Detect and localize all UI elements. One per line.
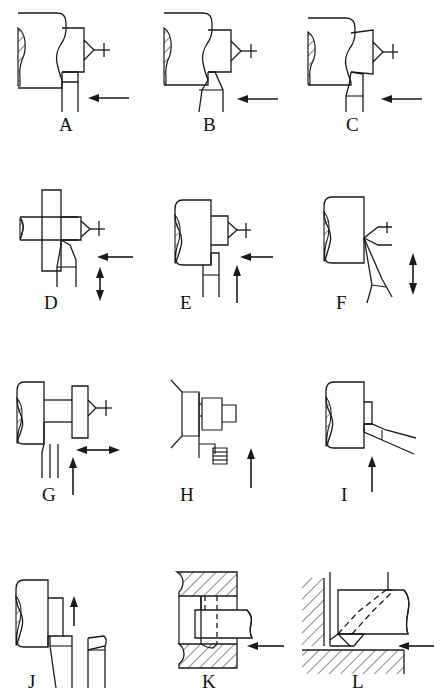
feed-arrow-up-E [233, 265, 241, 303]
panel-label-A: A [59, 115, 73, 134]
feed-arrow-left-B [237, 95, 278, 103]
grooving-tools-G [42, 422, 58, 478]
tool-holder-A [62, 28, 110, 72]
panel-label-K: K [202, 672, 216, 691]
tool-shank-C [346, 72, 363, 112]
tool-shank-E [203, 253, 219, 297]
section-hatch-C [308, 32, 315, 84]
workpiece-D [20, 190, 78, 271]
workpiece-G [17, 382, 88, 444]
feed-arrow-left-D [97, 253, 133, 261]
threading-tool-H [199, 437, 227, 464]
panel-label-G: G [42, 485, 56, 504]
feed-arrow-vertical-double-D [96, 267, 104, 301]
section-hatch-B [164, 28, 171, 84]
section-hatch-I [326, 397, 331, 446]
recessing-tool-L [330, 572, 409, 646]
panel-label-B: B [203, 115, 216, 134]
feed-arrow-left-K [247, 642, 284, 650]
second-tool-J [88, 636, 106, 688]
tool-F [364, 222, 392, 303]
tool-holder-E [211, 216, 251, 245]
panel-A: A [0, 0, 147, 175]
panel-L: L [294, 550, 441, 698]
panel-C: C [294, 0, 441, 175]
feed-arrow-left-L [398, 642, 434, 650]
boring-bar-K [195, 596, 252, 648]
panel-H: H [147, 360, 294, 535]
feed-arrow-left-E [240, 253, 273, 261]
chamfer-tool-I [364, 402, 416, 454]
section-hatch-A [18, 28, 25, 86]
panel-D: D [0, 175, 147, 350]
operations-figure-sheet: A B C [0, 0, 441, 698]
feed-arrow-up-J [70, 596, 78, 626]
panel-label-H: H [180, 485, 194, 504]
tool-holder-D [61, 217, 105, 240]
feed-arrow-vertical-double-F [409, 253, 417, 295]
panel-E: E [147, 175, 294, 350]
workpiece-F [324, 197, 364, 263]
panel-label-C: C [346, 115, 359, 134]
panel-I: I [294, 360, 441, 535]
panel-J: J [0, 550, 147, 698]
tool-shank-D [57, 240, 76, 287]
tool-shank-B [199, 72, 223, 112]
feed-arrow-up-G [69, 457, 77, 495]
panel-label-F: F [336, 293, 347, 312]
panel-B: B [147, 0, 294, 175]
tool-holder-B [208, 30, 257, 72]
parting-blade-J [48, 598, 72, 688]
feed-arrow-up-H [247, 448, 255, 488]
panel-K: K [147, 550, 294, 698]
panel-label-D: D [44, 293, 58, 312]
panel-label-J: J [28, 672, 35, 691]
panel-G: G [0, 360, 147, 535]
feed-arrow-left-C [381, 95, 422, 103]
feed-arrow-horizontal-double-G [76, 446, 120, 454]
panel-label-I: I [341, 485, 347, 504]
feed-arrow-left-A [88, 94, 129, 102]
workpiece-H [171, 380, 236, 448]
workpiece-I [326, 382, 364, 448]
panel-label-L: L [352, 672, 364, 691]
tool-shank-A [62, 72, 78, 112]
tool-holder-C [351, 30, 398, 74]
feed-arrow-up-I [368, 456, 376, 492]
panel-F: F [294, 175, 441, 350]
panel-label-E: E [180, 293, 192, 312]
tool-holder-G [88, 400, 112, 416]
